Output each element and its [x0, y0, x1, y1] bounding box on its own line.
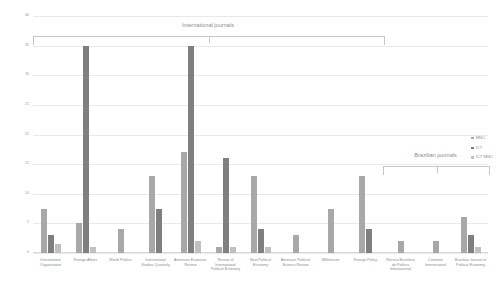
bar — [251, 176, 257, 253]
bar — [293, 235, 299, 253]
gridline — [33, 253, 488, 254]
bar-group — [383, 16, 418, 253]
bar-group — [103, 16, 138, 253]
y-axis-tick-label: 25 — [25, 103, 29, 107]
y-axis-tick-label: 10 — [25, 192, 29, 196]
bracket-brazilian-journals-label: Brazilian journals — [414, 152, 457, 158]
legend-label: MNC — [476, 136, 486, 140]
bar — [188, 46, 194, 253]
y-axis-tick-label: 5 — [27, 222, 29, 226]
bar — [216, 247, 222, 253]
legend-item[interactable]: ICT MNC — [471, 155, 493, 159]
x-axis-label: American Economic Review — [173, 258, 208, 304]
x-axis-label: International Organization — [33, 258, 68, 304]
chart-legend: MNCICTICT MNC — [471, 136, 493, 160]
bar — [55, 244, 61, 253]
bar-group — [68, 16, 103, 253]
bar — [41, 209, 47, 253]
bar — [48, 235, 54, 253]
x-axis-label: Millennium — [313, 258, 348, 304]
bar — [475, 247, 481, 253]
bar — [118, 229, 124, 253]
bar-group — [208, 16, 243, 253]
legend-swatch-icon — [471, 147, 474, 150]
bar — [265, 247, 271, 253]
x-axis-label: World Politics — [103, 258, 138, 304]
bracket-nub — [209, 36, 210, 43]
bar — [149, 176, 155, 253]
x-axis-label: International Studies Quarterly — [138, 258, 173, 304]
bar-group — [243, 16, 278, 253]
bar-group — [278, 16, 313, 253]
bar — [328, 209, 334, 253]
x-axis-label: Brazilian Journal of Political Economy — [453, 258, 488, 304]
bar-group — [173, 16, 208, 253]
bar — [359, 176, 365, 253]
bar-group — [418, 16, 453, 253]
x-axis-label: American Political Science Review — [278, 258, 313, 304]
bracket-nub — [437, 166, 438, 173]
y-axis-tick-label: 0 — [27, 251, 29, 255]
x-axis-label: Revista Brasileira de Política Internaci… — [383, 258, 418, 304]
bar-group — [348, 16, 383, 253]
y-axis-tick-label: 35 — [25, 44, 29, 48]
bar — [83, 46, 89, 253]
y-axis-tick-label: 40 — [25, 14, 29, 18]
legend-item[interactable]: MNC — [471, 136, 493, 140]
bar-chart: 0510152025303540 International Organizat… — [0, 0, 501, 305]
bar — [468, 235, 474, 253]
x-axis-labels: International OrganizationForeign Affair… — [33, 258, 488, 304]
bar — [398, 241, 404, 253]
bar — [223, 158, 229, 253]
x-axis-label: Review of International Political Econom… — [208, 258, 243, 304]
bar — [433, 241, 439, 253]
legend-swatch-icon — [471, 156, 474, 159]
x-axis-label: New Political Economy — [243, 258, 278, 304]
legend-label: ICT MNC — [476, 155, 493, 159]
bracket-international-journals-label: International journals — [182, 22, 234, 28]
bar-groups — [33, 16, 488, 253]
y-axis-tick-label: 30 — [25, 73, 29, 77]
bracket-brazilian-journals — [383, 166, 490, 175]
x-axis-label: Contexto Internacional — [418, 258, 453, 304]
bar — [195, 241, 201, 253]
x-axis-label: Foreign Affairs — [68, 258, 103, 304]
legend-label: ICT — [476, 146, 483, 150]
bar — [181, 152, 187, 253]
x-axis-label: Foreign Policy — [348, 258, 383, 304]
bar-group — [313, 16, 348, 253]
bar-group — [138, 16, 173, 253]
bar-group — [33, 16, 68, 253]
bracket-international-journals — [33, 36, 385, 45]
bar — [156, 209, 162, 253]
plot-area: 0510152025303540 — [33, 16, 488, 253]
bar — [366, 229, 372, 253]
y-axis-tick-label: 20 — [25, 133, 29, 137]
bar — [461, 217, 467, 253]
legend-swatch-icon — [471, 137, 474, 140]
legend-item[interactable]: ICT — [471, 146, 493, 150]
bar — [76, 223, 82, 253]
bar — [230, 247, 236, 253]
y-axis-tick-label: 15 — [25, 162, 29, 166]
bar — [90, 247, 96, 253]
bar — [258, 229, 264, 253]
